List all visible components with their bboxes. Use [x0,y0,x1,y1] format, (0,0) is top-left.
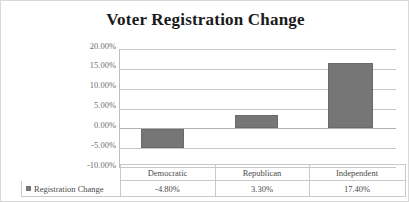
table-header-republican: Republican [215,165,309,181]
y-axis-tick-label: 0.00% [53,120,116,130]
table-header-independent: Independent [309,165,405,181]
table-value-independent: 17.40% [309,181,405,197]
table-value-republican: 3.30% [215,181,309,197]
table-row-header: Democratic Republican Independent [22,165,406,181]
series-color-swatch-icon [26,186,31,191]
chart-container: Voter Registration Change 20.00% 15.00% … [0,0,409,202]
table-corner-cell [22,165,121,181]
legend-label: Registration Change [34,184,104,194]
y-axis-tick-label: 20.00% [53,41,116,51]
table-row-values: Registration Change -4.80% 3.30% 17.40% [22,181,406,197]
chart-data-table: Democratic Republican Independent Regist… [21,164,406,197]
bar-independent [328,63,373,128]
plot-area [119,49,396,168]
legend-entry: Registration Change [22,181,121,197]
bar-democratic [141,129,184,148]
bar-republican [235,115,278,128]
table-value-democratic: -4.80% [120,181,215,197]
y-axis-tick-label: 5.00% [53,100,116,110]
gridline-neg5 [119,148,396,149]
table-header-democratic: Democratic [120,165,215,181]
chart-title: Voter Registration Change [1,10,409,30]
y-axis-tick-label: 10.00% [53,80,116,90]
y-axis-tick-label: 15.00% [53,60,116,70]
y-axis-tick-label: -5.00% [53,140,116,150]
y-axis-labels: 20.00% 15.00% 10.00% 5.00% 0.00% -5.00% … [53,41,116,176]
gridline-20 [119,49,396,50]
